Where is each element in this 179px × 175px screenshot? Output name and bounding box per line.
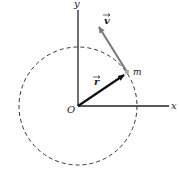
position-vector-arrow — [78, 75, 124, 106]
circular-motion-diagram: y x O m r v — [0, 0, 179, 175]
velocity-vector-label: v — [103, 14, 110, 27]
x-axis-label: x — [171, 100, 177, 111]
mass-point — [125, 70, 129, 74]
y-axis-label: y — [73, 0, 80, 9]
velocity-vector-arrow — [99, 27, 127, 72]
position-vector-label: r — [93, 76, 100, 88]
origin-label: O — [67, 104, 75, 115]
v-label: v — [104, 15, 110, 26]
mass-label: m — [133, 67, 142, 77]
